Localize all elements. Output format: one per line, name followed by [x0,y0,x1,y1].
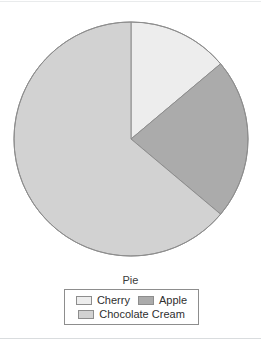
chart-root: Pie Cherry Apple Chocolate Cream [0,0,261,347]
legend-item-cherry[interactable]: Cherry [76,294,130,307]
legend-item-apple[interactable]: Apple [138,294,187,307]
pie-chart-svg [0,0,261,270]
pie-chart-area [0,0,261,270]
bottom-divider [0,338,261,339]
legend-label-chocolate-cream: Chocolate Cream [99,308,185,321]
chart-title: Pie [0,273,261,287]
legend-row: Chocolate Cream [69,307,194,321]
legend-row: Cherry Apple [69,293,194,307]
legend-swatch-icon-apple [138,296,154,305]
legend-label-cherry: Cherry [97,294,130,307]
chart-legend: Cherry Apple Chocolate Cream [64,289,199,325]
legend-label-apple: Apple [159,294,187,307]
legend-swatch-icon-cherry [76,296,92,305]
legend-swatch-icon-chocolate-cream [78,310,94,319]
legend-item-chocolate-cream[interactable]: Chocolate Cream [78,308,185,321]
